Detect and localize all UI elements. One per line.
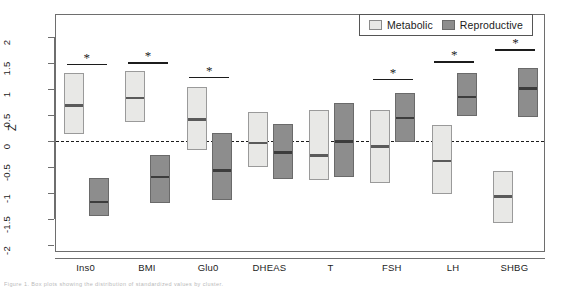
box-bmi-reproductive xyxy=(150,155,170,203)
y-axis-tick xyxy=(48,37,54,38)
y-axis-tick xyxy=(48,219,54,220)
x-axis-line xyxy=(55,258,545,259)
median-line xyxy=(65,104,83,106)
median-line xyxy=(433,160,451,162)
y-axis-tick xyxy=(48,193,54,194)
box-dheas-metabolic xyxy=(248,112,268,167)
box-glu0-metabolic xyxy=(187,87,207,149)
y-axis-tick-label: -1.5 xyxy=(1,216,12,233)
median-line xyxy=(249,142,267,144)
x-axis-tick-label: Glu0 xyxy=(198,262,219,273)
median-line xyxy=(494,195,512,197)
figure-caption: Figure 1. Box plots showing the distribu… xyxy=(4,281,559,287)
x-axis-tick-label: LH xyxy=(447,262,460,273)
median-line xyxy=(213,169,231,171)
box-lh-metabolic xyxy=(432,125,452,194)
x-axis-tick-label: Ins0 xyxy=(76,262,95,273)
box-t-metabolic xyxy=(309,110,329,180)
y-axis-tick xyxy=(48,63,54,64)
median-line xyxy=(371,145,389,147)
significance-star-bmi: * xyxy=(145,49,152,62)
significance-star-glu0: * xyxy=(206,64,213,77)
median-line xyxy=(335,140,353,142)
reproductive-swatch-icon xyxy=(442,20,455,30)
box-shbg-reproductive xyxy=(518,68,538,117)
box-shbg-metabolic xyxy=(493,171,513,223)
legend-entry-metabolic: Metabolic xyxy=(369,19,433,31)
x-axis-tick-label: SHBG xyxy=(501,262,529,273)
box-bmi-metabolic xyxy=(125,71,145,122)
box-fsh-reproductive xyxy=(395,93,415,142)
significance-star-ins0: * xyxy=(83,51,90,64)
zero-reference-line xyxy=(56,141,544,142)
y-axis-tick xyxy=(48,245,54,246)
x-axis-tick-label: FSH xyxy=(382,262,402,273)
x-axis-tick-label: DHEAS xyxy=(253,262,287,273)
x-axis-tick-label: T xyxy=(328,262,334,273)
legend-entry-reproductive: Reproductive xyxy=(442,19,523,31)
y-axis-tick-label: 0 xyxy=(1,144,12,149)
median-line xyxy=(274,151,292,153)
median-line xyxy=(188,118,206,120)
median-line xyxy=(310,154,328,156)
x-axis-tick-label: BMI xyxy=(138,262,156,273)
significance-star-fsh: * xyxy=(390,66,397,79)
legend-label-metabolic: Metabolic xyxy=(387,19,433,31)
significance-star-shbg: * xyxy=(512,36,519,49)
median-line xyxy=(396,117,414,119)
box-fsh-metabolic xyxy=(370,110,390,183)
y-axis-tick xyxy=(48,115,54,116)
y-axis-tick xyxy=(48,141,54,142)
y-axis-tick-label: 0.5 xyxy=(1,114,12,128)
legend: Metabolic Reproductive xyxy=(359,14,533,36)
box-glu0-reproductive xyxy=(212,133,232,201)
box-dheas-reproductive xyxy=(273,124,293,180)
median-line xyxy=(90,201,108,203)
y-axis-tick-label: 1.5 xyxy=(1,62,12,76)
box-lh-reproductive xyxy=(457,73,477,116)
box-t-reproductive xyxy=(334,103,354,177)
median-line xyxy=(126,97,144,99)
y-axis-tick xyxy=(48,167,54,168)
y-axis-tick-label: -0.5 xyxy=(1,164,12,181)
boxplot-figure: Z -2-1.5-1-0.500.511.52 ****** Metabolic… xyxy=(0,0,563,291)
y-axis-tick xyxy=(48,89,54,90)
box-ins0-reproductive xyxy=(89,178,109,215)
median-line xyxy=(458,96,476,98)
y-axis-tick-label: 1 xyxy=(1,92,12,97)
y-axis-tick-label: 2 xyxy=(1,40,12,45)
legend-label-reproductive: Reproductive xyxy=(460,19,523,31)
y-axis-tick-label: -2 xyxy=(1,246,12,255)
y-axis: Z -2-1.5-1-0.500.511.52 xyxy=(0,0,55,291)
median-line xyxy=(151,176,169,178)
y-axis-tick-label: -1 xyxy=(1,194,12,203)
box-ins0-metabolic xyxy=(64,73,84,134)
significance-star-lh: * xyxy=(451,48,458,61)
plot-area: ****** xyxy=(55,14,545,252)
median-line xyxy=(519,87,537,89)
metabolic-swatch-icon xyxy=(369,20,382,30)
